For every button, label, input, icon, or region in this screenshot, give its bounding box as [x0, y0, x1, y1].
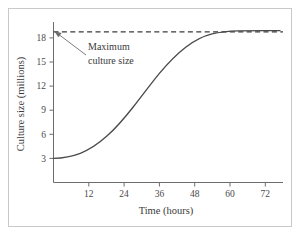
x-tick-label-48: 48 [190, 189, 200, 199]
x-axis-ticks [89, 183, 265, 187]
x-tick-label-72: 72 [261, 189, 271, 199]
maximum-culture-size-leader [54, 31, 86, 55]
y-axis-title: Culture size (millions) [15, 56, 27, 151]
annotation-line-1: Maximum [88, 41, 130, 52]
leader-line [58, 34, 87, 56]
x-tick-label-24: 24 [119, 189, 129, 199]
y-tick-label-6: 6 [41, 130, 46, 140]
figure-container: 3 6 9 12 15 18 12 24 36 48 60 72 Time (h… [0, 0, 300, 235]
y-tick-label-15: 15 [37, 57, 47, 67]
chart-plot-area: 3 6 9 12 15 18 12 24 36 48 60 72 Time (h… [0, 0, 300, 235]
x-tick-label-12: 12 [84, 189, 94, 199]
y-tick-label-18: 18 [37, 33, 47, 43]
annotation-line-2: culture size [88, 55, 134, 66]
x-axis-title: Time (hours) [139, 205, 194, 217]
y-tick-label-12: 12 [37, 81, 47, 91]
y-tick-label-9: 9 [41, 105, 46, 115]
y-tick-label-3: 3 [41, 154, 46, 164]
x-tick-label-36: 36 [155, 189, 165, 199]
y-axis-ticks [50, 38, 54, 158]
x-tick-label-60: 60 [225, 189, 235, 199]
arrowhead-icon [54, 31, 61, 37]
